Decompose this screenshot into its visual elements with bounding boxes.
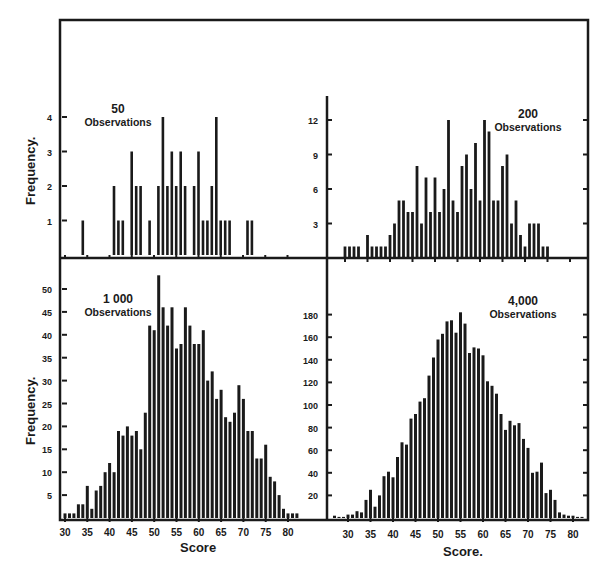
y-tick-label: 20	[42, 422, 52, 432]
histogram-bar	[220, 390, 223, 518]
histogram-bar	[554, 500, 557, 518]
histogram-bar	[99, 486, 102, 518]
x-tick-label: 35	[365, 529, 377, 540]
y-tick-label: 1	[47, 217, 52, 227]
y-tick-label: 45	[42, 308, 52, 318]
histogram-bar	[215, 399, 218, 518]
histogram-bar	[130, 436, 133, 518]
histogram-bar	[546, 247, 549, 259]
x-tick-label: 75	[260, 527, 272, 538]
histogram-bar	[357, 247, 360, 259]
histogram-bar	[576, 517, 579, 518]
bars	[344, 120, 549, 258]
y-tick-label: 3	[313, 220, 318, 230]
histogram-bar	[251, 221, 254, 256]
histogram-bar	[416, 166, 419, 258]
y-tick-label: 160	[303, 333, 318, 343]
histogram-bar	[398, 201, 401, 259]
x-tick-label: 60	[477, 529, 489, 540]
y-tick-label: 40	[308, 469, 318, 479]
histogram-bar	[497, 201, 500, 259]
x-tick-label: 40	[387, 529, 399, 540]
histogram-bar	[393, 224, 396, 259]
histogram-bar	[342, 517, 345, 518]
y-axis-ticks: 1234	[47, 113, 67, 227]
x-tick-label: 80	[567, 529, 579, 540]
histogram-bar	[113, 186, 116, 255]
y-tick-label: 50	[42, 285, 52, 295]
histogram-bar	[374, 507, 377, 518]
y-tick-label: 25	[42, 400, 52, 410]
histogram-bar	[402, 201, 405, 259]
histogram-bar	[479, 201, 482, 259]
y-tick-label: 10	[42, 468, 52, 478]
x-tick-label: 65	[500, 529, 512, 540]
y-tick-label: 6	[313, 185, 318, 195]
histogram-bar	[104, 472, 107, 518]
x-tick-label: 65	[216, 527, 228, 538]
histogram-bar	[441, 334, 444, 518]
histogram-bar	[233, 413, 236, 518]
histogram-bar	[486, 381, 489, 518]
histogram-bar	[500, 414, 503, 518]
histogram-bar	[215, 117, 218, 255]
y-tick-label: 2	[47, 182, 52, 192]
title-number: 50	[111, 102, 125, 116]
histogram-bar	[515, 201, 518, 259]
histogram-bar	[447, 120, 450, 258]
x-tick-label: 55	[171, 527, 183, 538]
histogram-bar	[366, 235, 369, 258]
histogram-bar	[184, 307, 187, 518]
histogram-bar	[122, 436, 125, 518]
panel-50-observations: 123450Observations	[47, 102, 288, 259]
histogram-bar	[429, 212, 432, 258]
histogram-bar	[446, 321, 449, 518]
y-axis-ticks: 20406080100120140160180	[303, 311, 588, 502]
histogram-bar	[545, 493, 548, 518]
y-tick-label: 180	[303, 311, 318, 321]
histogram-bar	[450, 320, 453, 518]
histogram-bar	[264, 445, 267, 518]
histogram-bar	[465, 155, 468, 259]
histogram-bar	[287, 513, 290, 518]
x-tick-label: 75	[545, 529, 557, 540]
x-tick-label: 70	[238, 527, 250, 538]
histogram-bar	[82, 221, 85, 256]
histogram-bar	[166, 326, 169, 518]
histogram-bar	[347, 515, 350, 518]
histogram-bar	[522, 439, 525, 518]
histogram-bar	[130, 152, 133, 256]
histogram-bar	[228, 221, 231, 256]
bars	[82, 117, 254, 255]
histogram-bar	[365, 500, 368, 518]
histogram-bar	[405, 445, 408, 518]
histogram-bar	[527, 448, 530, 518]
histogram-bar	[456, 212, 459, 258]
histogram-bar	[510, 224, 513, 259]
histogram-bar	[419, 402, 422, 518]
histogram-bar	[452, 201, 455, 259]
histogram-bar	[410, 419, 413, 518]
histogram-bar	[117, 221, 120, 256]
histogram-bar	[464, 324, 467, 518]
histogram-bar	[495, 394, 498, 518]
histogram-bar	[333, 516, 336, 518]
histogram-bar	[338, 517, 341, 518]
histogram-bar	[504, 430, 507, 518]
panel-title: 4,000Observations	[489, 294, 556, 320]
histogram-bar	[179, 152, 182, 256]
panel-200-observations: 36912200Observations	[308, 107, 588, 262]
x-tick-label: 30	[59, 527, 71, 538]
histogram-bar	[148, 221, 151, 256]
x-tick-label: 40	[104, 527, 116, 538]
histogram-bar	[188, 326, 191, 518]
histogram-bar	[513, 425, 516, 518]
title-text: Observations	[494, 121, 561, 133]
x-tick-label: 60	[193, 527, 205, 538]
histogram-bar	[175, 186, 178, 255]
histogram-bar	[211, 371, 214, 518]
histogram-bar	[428, 376, 431, 518]
histogram-bar	[434, 178, 437, 259]
y-tick-label: 30	[42, 377, 52, 387]
histogram-bar	[68, 513, 71, 518]
